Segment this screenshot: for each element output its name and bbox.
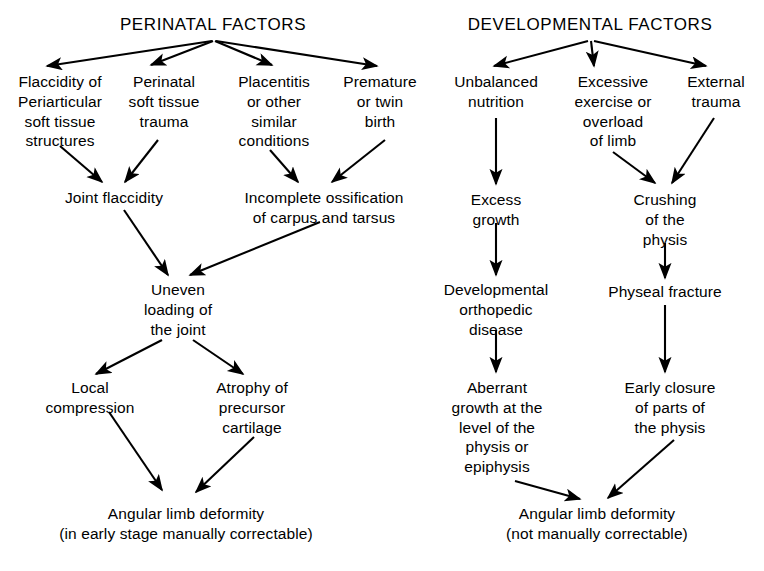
edge-developmental-to-unbalanced-nutrition (494, 41, 588, 66)
edge-perinatal-to-flaccidity (47, 41, 212, 66)
title-perinatal-factors: PERINATAL FACTORS (60, 15, 366, 35)
node-physeal-fracture: Physeal fracture (597, 282, 733, 302)
node-excessive-exercise: Excessive exercise or overload of limb (556, 72, 670, 151)
flowchart-diagram: PERINATAL FACTORS DEVELOPMENTAL FACTORS … (0, 0, 764, 571)
node-flaccidity: Flaccidity of Periarticular soft tissue … (4, 72, 116, 151)
node-early-closure: Early closure of parts of the physis (604, 378, 736, 437)
node-unbalanced-nutrition: Unbalanced nutrition (440, 72, 552, 112)
node-angular-limb-deformity-left: Angular limb deformity (in early stage m… (8, 504, 364, 544)
node-perinatal-soft-tissue-trauma: Perinatal soft tissue trauma (113, 72, 215, 131)
node-incomplete-ossification: Incomplete ossification of carpus and ta… (222, 188, 426, 228)
edge-trauma-to-joint-flaccidity (125, 140, 158, 182)
edge-local-compression-to-deformity-left (109, 412, 162, 490)
node-local-compression: Local compression (28, 378, 152, 418)
node-aberrant-growth: Aberrant growth at the level of the phys… (428, 378, 566, 477)
edge-placentitis-to-ossification (270, 150, 298, 182)
edge-ossification-to-uneven (190, 222, 320, 275)
edge-aberrant-to-deformity-right (515, 481, 580, 499)
edge-uneven-to-atrophy (193, 340, 243, 374)
edge-excessive-exercise-to-crushing (613, 152, 655, 183)
edge-joint-flaccidity-to-uneven (124, 210, 168, 275)
edge-perinatal-to-premature (216, 41, 377, 66)
edge-atrophy-to-deformity-left (196, 437, 254, 492)
node-excess-growth: Excess growth (444, 190, 548, 230)
edge-developmental-to-excessive-exercise (591, 41, 594, 66)
edge-early-closure-to-deformity-right (608, 440, 674, 498)
edge-flaccidity-to-joint-flaccidity (60, 146, 102, 182)
node-premature-birth: Premature or twin birth (330, 72, 430, 131)
node-placentitis: Placentitis or other similar conditions (222, 72, 326, 151)
node-angular-limb-deformity-right: Angular limb deformity (not manually cor… (430, 504, 764, 544)
edge-uneven-to-local-compression (96, 340, 162, 374)
title-developmental-factors: DEVELOPMENTAL FACTORS (440, 15, 740, 35)
node-uneven-loading: Uneven loading of the joint (122, 280, 234, 339)
node-crushing-physis: Crushing of the physis (614, 190, 716, 249)
node-atrophy-precursor-cartilage: Atrophy of precursor cartilage (196, 378, 308, 437)
node-external-trauma: External trauma (668, 72, 764, 112)
edge-developmental-to-external-trauma (594, 41, 706, 66)
node-joint-flaccidity: Joint flaccidity (50, 188, 178, 208)
edge-premature-to-ossification (332, 140, 385, 182)
node-developmental-orthopedic-disease: Developmental orthopedic disease (428, 280, 564, 339)
edge-external-trauma-to-crushing (672, 118, 714, 183)
